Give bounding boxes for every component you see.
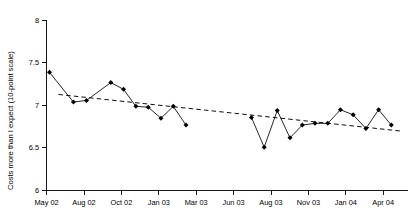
y-tick-label-6-5: 6.5 bbox=[29, 143, 39, 152]
x-tick-label-nov-03: Nov 03 bbox=[297, 198, 320, 207]
trend-line bbox=[58, 94, 400, 131]
x-tick-label-aug-02: Aug 02 bbox=[72, 198, 95, 207]
x-tick-label-mar-03: Mar 03 bbox=[185, 198, 208, 207]
data-point-marker bbox=[275, 108, 280, 113]
x-tick-label-jan-04: Jan 04 bbox=[335, 198, 357, 207]
series-line-segment-2 bbox=[251, 110, 391, 147]
x-tick-label-may-02: May 02 bbox=[34, 198, 58, 207]
x-tick-label-jan-03: Jan 03 bbox=[148, 198, 170, 207]
data-point-marker bbox=[262, 145, 267, 150]
x-tick-label-jun-03: Jun 03 bbox=[222, 198, 244, 207]
y-axis-title-group: Costs more than I expect (10-point scale… bbox=[6, 51, 15, 190]
cost-expectation-line-chart: Costs more than I expect (10-point scale… bbox=[0, 0, 415, 221]
data-series-group bbox=[47, 70, 394, 150]
chart-plot-area: Costs more than I expect (10-point scale… bbox=[0, 0, 415, 221]
y-tick-label-7-5: 7.5 bbox=[29, 58, 39, 67]
data-point-marker bbox=[184, 123, 189, 128]
series-line-segment-1 bbox=[49, 72, 186, 125]
y-axis-title: Costs more than I expect (10-point scale… bbox=[6, 51, 15, 190]
series-markers bbox=[47, 70, 394, 150]
x-tick-label-oct-02: Oct 02 bbox=[111, 198, 133, 207]
y-tick-label-6: 6 bbox=[35, 186, 39, 195]
y-tick-label-7: 7 bbox=[35, 101, 39, 110]
x-axis-group: May 02 Aug 02 Oct 02 Jan 03 Mar 03 Jun 0… bbox=[34, 191, 408, 208]
y-axis-group: 8 7.5 7 6.5 6 bbox=[29, 16, 47, 195]
x-tick-label-apr-04: Apr 04 bbox=[372, 198, 394, 207]
y-tick-label-8: 8 bbox=[35, 16, 39, 25]
x-tick-label-aug-03: Aug 03 bbox=[259, 198, 282, 207]
